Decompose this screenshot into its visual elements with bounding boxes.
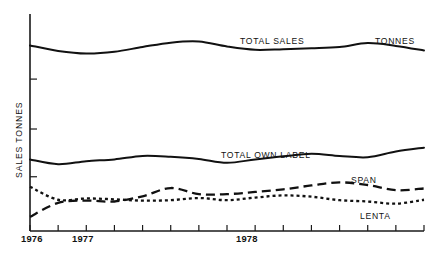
total-own-label-label: TOTAL OWN LABEL xyxy=(221,150,311,160)
lenta-label: LENTA xyxy=(360,211,391,221)
x-tick-label-1977: 1977 xyxy=(72,233,94,244)
series-total-sales xyxy=(30,41,424,53)
sales-tonnes-line-chart: SALES TONNES TOTAL SALES TONNES TOTAL OW… xyxy=(0,0,434,256)
y-axis-title: SALES TONNES xyxy=(14,102,24,178)
x-tick-label-1978: 1978 xyxy=(236,233,258,244)
x-tick-label-1976: 1976 xyxy=(21,233,43,244)
total-sales-label: TOTAL SALES xyxy=(240,36,304,46)
span-label: SPAN xyxy=(351,175,377,185)
y-axis-ticks xyxy=(30,79,37,177)
x-axis-ticks xyxy=(30,225,424,231)
tonnes-label: TONNES xyxy=(375,36,415,46)
